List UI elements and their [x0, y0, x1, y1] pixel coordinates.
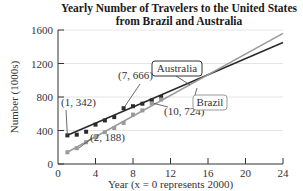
data-point-brazil — [159, 98, 163, 102]
y-tick-label: 400 — [37, 125, 54, 137]
x-tick-label: 20 — [240, 167, 252, 179]
x-axis-label: Year (x = 0 represents 2000) — [108, 178, 233, 191]
point-annotation: (1, 342) — [61, 96, 96, 109]
chart-plot: 04008001200160004812162024Year (x = 0 re… — [0, 0, 303, 191]
data-point-brazil — [122, 121, 126, 125]
y-tick-label: 1200 — [31, 58, 54, 70]
trendline-australia — [67, 43, 283, 136]
y-tick-label: 0 — [48, 158, 54, 170]
data-point-australia — [75, 133, 79, 137]
data-point-brazil — [150, 101, 154, 105]
series-label-australia: Australia — [157, 62, 197, 74]
annotation-leader-line — [79, 138, 92, 148]
data-point-australia — [140, 102, 144, 106]
series-label-leader — [176, 76, 190, 85]
data-point-australia — [112, 115, 116, 119]
x-tick-label: 24 — [278, 167, 290, 179]
series-label-leader — [195, 88, 197, 95]
y-tick-label: 800 — [37, 91, 54, 103]
data-point-australia — [131, 104, 135, 108]
point-annotation: (7, 666) — [118, 69, 153, 82]
point-annotation: (2, 188) — [90, 131, 125, 144]
x-tick-label: 0 — [55, 167, 61, 179]
data-point-brazil — [65, 150, 69, 154]
data-point-brazil — [112, 126, 116, 130]
data-point-australia — [84, 130, 88, 134]
data-point-australia — [94, 123, 98, 127]
data-point-brazil — [140, 108, 144, 112]
data-point-australia — [103, 118, 107, 122]
y-tick-label: 1600 — [31, 24, 54, 36]
y-axis-label: Number (1000s) — [8, 60, 21, 133]
x-tick-label: 4 — [93, 167, 99, 179]
data-point-brazil — [131, 113, 135, 117]
data-point-brazil — [75, 146, 79, 150]
annotation-leader-line — [66, 110, 67, 135]
series-label-brazil: Brazil — [197, 96, 224, 108]
